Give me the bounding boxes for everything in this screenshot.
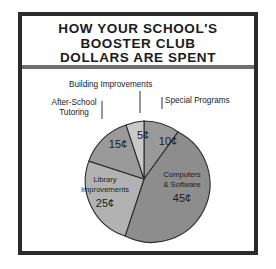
poster-frame: HOW YOUR SCHOOL'S BOOSTER CLUB DOLLARS A… — [18, 12, 258, 255]
slice-value-after-school-tutoring: 15¢ — [109, 138, 127, 150]
callout-building-improvements: Building Improvements — [69, 80, 152, 89]
callout-after-school-line1: After-School — [51, 98, 96, 107]
slice-value-special-programs: 10¢ — [159, 135, 177, 147]
title-line-1: HOW YOUR SCHOOL'S — [22, 22, 254, 37]
slice-label-library-line1: Library — [93, 175, 116, 184]
callout-special-programs: Special Programs — [165, 96, 230, 105]
slice-label-computers-line1: Computers — [163, 170, 200, 179]
pie-chart: Computers & Software 45¢ Library Improve… — [22, 69, 254, 251]
slice-value-building-improvements: 5¢ — [137, 129, 149, 141]
slice-label-library-line2: Improvements — [81, 185, 129, 194]
title-line-3: DOLLARS ARE SPENT — [22, 51, 254, 66]
slice-value-library: 25¢ — [96, 197, 114, 209]
slice-label-computers-line2: & Software — [163, 180, 200, 189]
slice-value-computers: 45¢ — [173, 192, 191, 204]
page-title: HOW YOUR SCHOOL'S BOOSTER CLUB DOLLARS A… — [22, 16, 254, 66]
title-line-2: BOOSTER CLUB — [22, 37, 254, 52]
callout-after-school-line2: Tutoring — [59, 108, 89, 117]
pie-chart-svg: Computers & Software 45¢ Library Improve… — [22, 69, 254, 251]
